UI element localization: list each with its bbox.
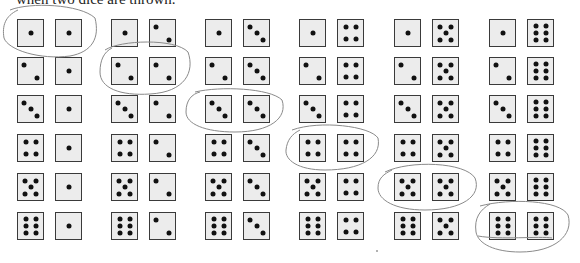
pip [254,31,259,36]
pip [400,140,405,145]
pip [533,69,538,74]
pip [315,231,320,236]
pip [449,230,454,235]
pip [66,224,71,229]
pip [438,217,443,222]
second-die-3 [243,95,270,123]
second-die-5 [432,57,459,85]
first-die-2 [489,57,516,85]
pip [305,224,310,229]
pip [260,113,265,118]
pip [405,185,410,190]
pip [400,191,405,196]
second-die-2 [149,173,176,201]
pip [533,23,538,28]
pip [28,31,33,36]
pip [353,230,358,235]
pip [33,152,38,157]
pip [221,224,226,229]
pip [66,107,71,112]
second-die-2 [149,134,176,162]
pip [400,152,405,157]
pip [248,217,253,222]
pip [505,216,510,221]
pip [543,224,548,229]
pip [166,113,171,118]
pip [543,31,548,36]
pip [343,75,348,80]
pip [449,217,454,222]
pip [154,139,159,144]
second-die-1 [55,19,82,47]
second-die-2 [149,212,176,240]
pip [23,231,28,236]
pip [400,216,405,221]
pip [506,75,511,80]
first-die-4 [17,134,44,162]
pip [353,191,358,196]
pip [222,75,227,80]
second-die-2 [149,57,176,85]
second-die-5 [432,173,459,201]
pip [533,177,538,182]
pip [154,217,159,222]
second-die-2 [149,19,176,47]
pip [127,224,132,229]
pip [505,231,510,236]
pip [34,75,39,80]
second-die-1 [55,95,82,123]
second-die-3 [243,19,270,47]
pip [411,191,416,196]
second-die-5 [432,212,459,240]
pip [166,37,171,42]
pip [438,24,443,29]
pip [23,152,28,157]
pip [411,75,416,80]
pip [353,113,358,118]
first-die-1 [111,19,138,47]
pip [495,140,500,145]
pip [117,152,122,157]
pip [353,101,358,106]
pip [128,113,133,118]
pip [410,231,415,236]
pip [254,224,259,229]
pip [343,25,348,30]
pip [305,231,310,236]
first-die-2 [205,57,232,85]
pip [533,192,538,197]
first-die-3 [111,95,138,123]
pip [310,107,315,112]
pip [122,31,127,36]
second-die-6 [527,173,554,201]
pip [543,61,548,66]
pip [533,138,538,143]
pip [533,146,538,151]
pip [117,224,122,229]
pip [506,178,511,183]
pip [304,100,309,105]
pip [343,113,348,118]
pip [254,185,259,190]
pip [443,224,448,229]
second-die-2 [149,95,176,123]
pip [400,231,405,236]
pip [505,224,510,229]
second-die-4 [337,19,364,47]
first-die-2 [394,57,421,85]
pip [399,100,404,105]
pip [411,113,416,118]
pip [533,107,538,112]
pip [305,191,310,196]
pip [23,224,28,229]
pip [494,62,499,67]
first-die-1 [299,19,326,47]
pip [400,224,405,229]
pip [211,231,216,236]
pip [533,99,538,104]
pip [28,185,33,190]
pip [343,37,348,42]
pip [505,152,510,157]
pip [343,179,348,184]
second-die-6 [527,19,554,47]
